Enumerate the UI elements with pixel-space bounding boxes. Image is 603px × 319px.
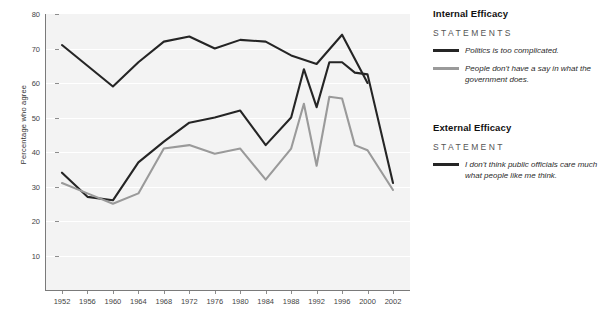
legend-spacer (433, 92, 601, 122)
legend-item-label: People don't have a say in what the gove… (465, 63, 601, 85)
legend-group-subheading: STATEMENT (433, 142, 601, 152)
chart-root: Percentage who agree 1020304050607080 19… (0, 0, 603, 319)
legend-group-heading: External Efficacy (433, 122, 601, 133)
series-line (62, 97, 393, 204)
legend-item-label: Politics is too complicated. (465, 45, 559, 56)
legend-group-heading: Internal Efficacy (433, 8, 601, 19)
series-line (62, 35, 368, 87)
legend-item[interactable]: People don't have a say in what the gove… (433, 63, 601, 85)
legend-item-label: I don't think public officials care much… (465, 159, 601, 181)
legend-color-swatch (433, 163, 459, 166)
legend-color-swatch (433, 49, 459, 52)
chart-legend: Internal EfficacySTATEMENTSPolitics is t… (433, 8, 601, 188)
legend-group-subheading: STATEMENTS (433, 28, 601, 38)
legend-item[interactable]: I don't think public officials care much… (433, 159, 601, 181)
legend-color-swatch (433, 67, 459, 70)
series-line (62, 62, 393, 200)
series-lines (0, 0, 420, 319)
legend-item[interactable]: Politics is too complicated. (433, 45, 601, 56)
plot-area: Percentage who agree 1020304050607080 19… (0, 0, 420, 319)
